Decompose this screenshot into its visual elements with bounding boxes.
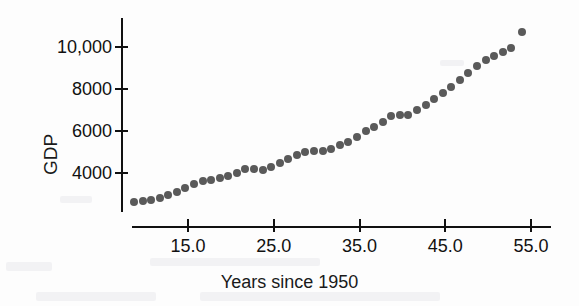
data-point: [499, 48, 507, 56]
data-point: [224, 172, 232, 180]
scan-artifact: [150, 258, 320, 266]
y-axis-tick: [115, 172, 128, 174]
data-point: [147, 196, 155, 204]
scan-artifact: [440, 60, 464, 66]
data-point: [267, 163, 275, 171]
gdp-scatter-figure: 10,000800060004000 15.025.035.045.055.0 …: [0, 0, 579, 306]
data-point: [216, 174, 224, 182]
data-point: [284, 155, 292, 163]
data-point: [404, 111, 412, 119]
data-point: [310, 147, 318, 155]
data-point: [259, 166, 267, 174]
data-point: [464, 69, 472, 77]
data-point: [164, 191, 172, 199]
data-point: [396, 111, 404, 119]
data-point: [173, 188, 181, 196]
scan-artifact: [36, 292, 156, 301]
data-point: [276, 159, 284, 167]
data-point: [456, 76, 464, 84]
data-point: [379, 118, 387, 126]
data-point: [370, 123, 378, 131]
data-point: [250, 165, 258, 173]
data-point: [507, 44, 515, 52]
x-axis-tick: [444, 219, 446, 232]
y-axis-tick-label: 6000: [22, 122, 112, 140]
data-point: [190, 180, 198, 188]
y-axis-tick-label: 8000: [22, 80, 112, 98]
x-axis-tick-label: 55.0: [496, 236, 566, 257]
x-axis-tick: [530, 219, 532, 232]
y-axis-tick: [115, 46, 128, 48]
y-axis-tick: [115, 130, 128, 132]
data-point: [199, 177, 207, 185]
data-point: [447, 83, 455, 91]
data-point: [156, 194, 164, 202]
x-axis-tick-label: 45.0: [410, 236, 480, 257]
data-point: [293, 151, 301, 159]
data-point: [353, 133, 361, 141]
data-point: [233, 169, 241, 177]
data-point: [130, 198, 138, 206]
x-axis-tick-label: 25.0: [239, 236, 309, 257]
data-point: [362, 127, 370, 135]
data-point: [344, 138, 352, 146]
data-point: [422, 101, 430, 109]
data-point: [439, 89, 447, 97]
data-point: [241, 165, 249, 173]
y-axis-tick-label: 10,000: [22, 38, 112, 56]
scan-artifact: [200, 292, 440, 301]
y-axis-tick-label: 4000: [22, 164, 112, 182]
data-point: [207, 176, 215, 184]
data-point: [430, 95, 438, 103]
x-axis-tick: [273, 219, 275, 232]
scan-artifact: [60, 196, 92, 203]
data-point: [319, 147, 327, 155]
data-point: [387, 112, 395, 120]
data-point: [139, 197, 147, 205]
x-axis-tick: [359, 219, 361, 232]
scan-artifact: [6, 262, 52, 271]
y-axis-title: GDP: [40, 55, 62, 175]
y-axis-tick: [115, 88, 128, 90]
data-point: [301, 148, 309, 156]
data-point: [473, 62, 481, 70]
data-point: [413, 106, 421, 114]
data-point: [327, 145, 335, 153]
x-axis-line: [132, 226, 551, 228]
data-point: [181, 184, 189, 192]
data-point: [490, 52, 498, 60]
x-axis-tick-label: 15.0: [153, 236, 223, 257]
x-axis-tick-label: 35.0: [325, 236, 395, 257]
x-axis-title: Years since 1950: [0, 272, 579, 293]
x-axis-tick: [187, 219, 189, 232]
data-point: [482, 56, 490, 64]
data-point: [336, 141, 344, 149]
data-point: [518, 28, 526, 36]
